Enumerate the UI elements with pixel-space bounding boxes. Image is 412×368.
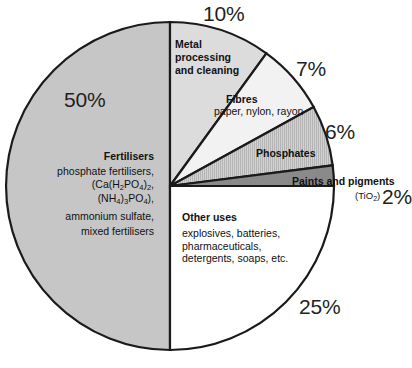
slice-label-other-line1: explosives, batteries, xyxy=(182,227,332,239)
slice-label-metal-processing: Metal processing and cleaning xyxy=(175,38,247,78)
percent-label-paints: 2% xyxy=(382,185,412,209)
slice-label-fertilisers-formula2: (NH4)3PO4), xyxy=(14,192,154,206)
percent-label-metal-processing: 10% xyxy=(203,2,244,26)
slice-label-phosphates: Phosphates xyxy=(256,147,316,159)
slice-label-paints-and-pigments: Paints and pigments xyxy=(292,175,395,187)
slice-label-other-uses: Other uses explosives, batteries, pharma… xyxy=(182,211,332,265)
slice-label-fertilisers-heading: Fertilisers xyxy=(14,150,154,162)
slice-label-other-line3: detergents, soaps, etc. xyxy=(182,252,332,264)
slice-label-fibres-heading: Fibres xyxy=(226,93,306,105)
slice-label-fertilisers-line4: ammonium sulfate, xyxy=(14,210,154,222)
percent-label-fibres: 7% xyxy=(296,57,326,81)
slice-label-fertilisers-formula1: (Ca(H2PO4)2, xyxy=(14,178,154,192)
percent-label-phosphates: 6% xyxy=(325,120,355,144)
slice-label-other-heading: Other uses xyxy=(182,211,332,223)
percent-label-fertilisers: 50% xyxy=(64,88,105,112)
slice-label-fertilisers-line1: phosphate fertilisers, xyxy=(14,165,154,177)
slice-label-other-line2: pharmaceuticals, xyxy=(182,240,332,252)
slice-label-fertilisers: Fertilisers phosphate fertilisers, (Ca(H… xyxy=(14,150,154,237)
percent-label-other-uses: 25% xyxy=(299,295,340,319)
slice-label-fibres: Fibres paper, nylon, rayon xyxy=(214,93,306,118)
slice-label-fertilisers-line5: mixed fertilisers xyxy=(14,225,154,237)
slice-label-paints-formula: (TiO2) xyxy=(355,190,380,203)
slice-label-fibres-detail: paper, nylon, rayon xyxy=(214,105,306,117)
